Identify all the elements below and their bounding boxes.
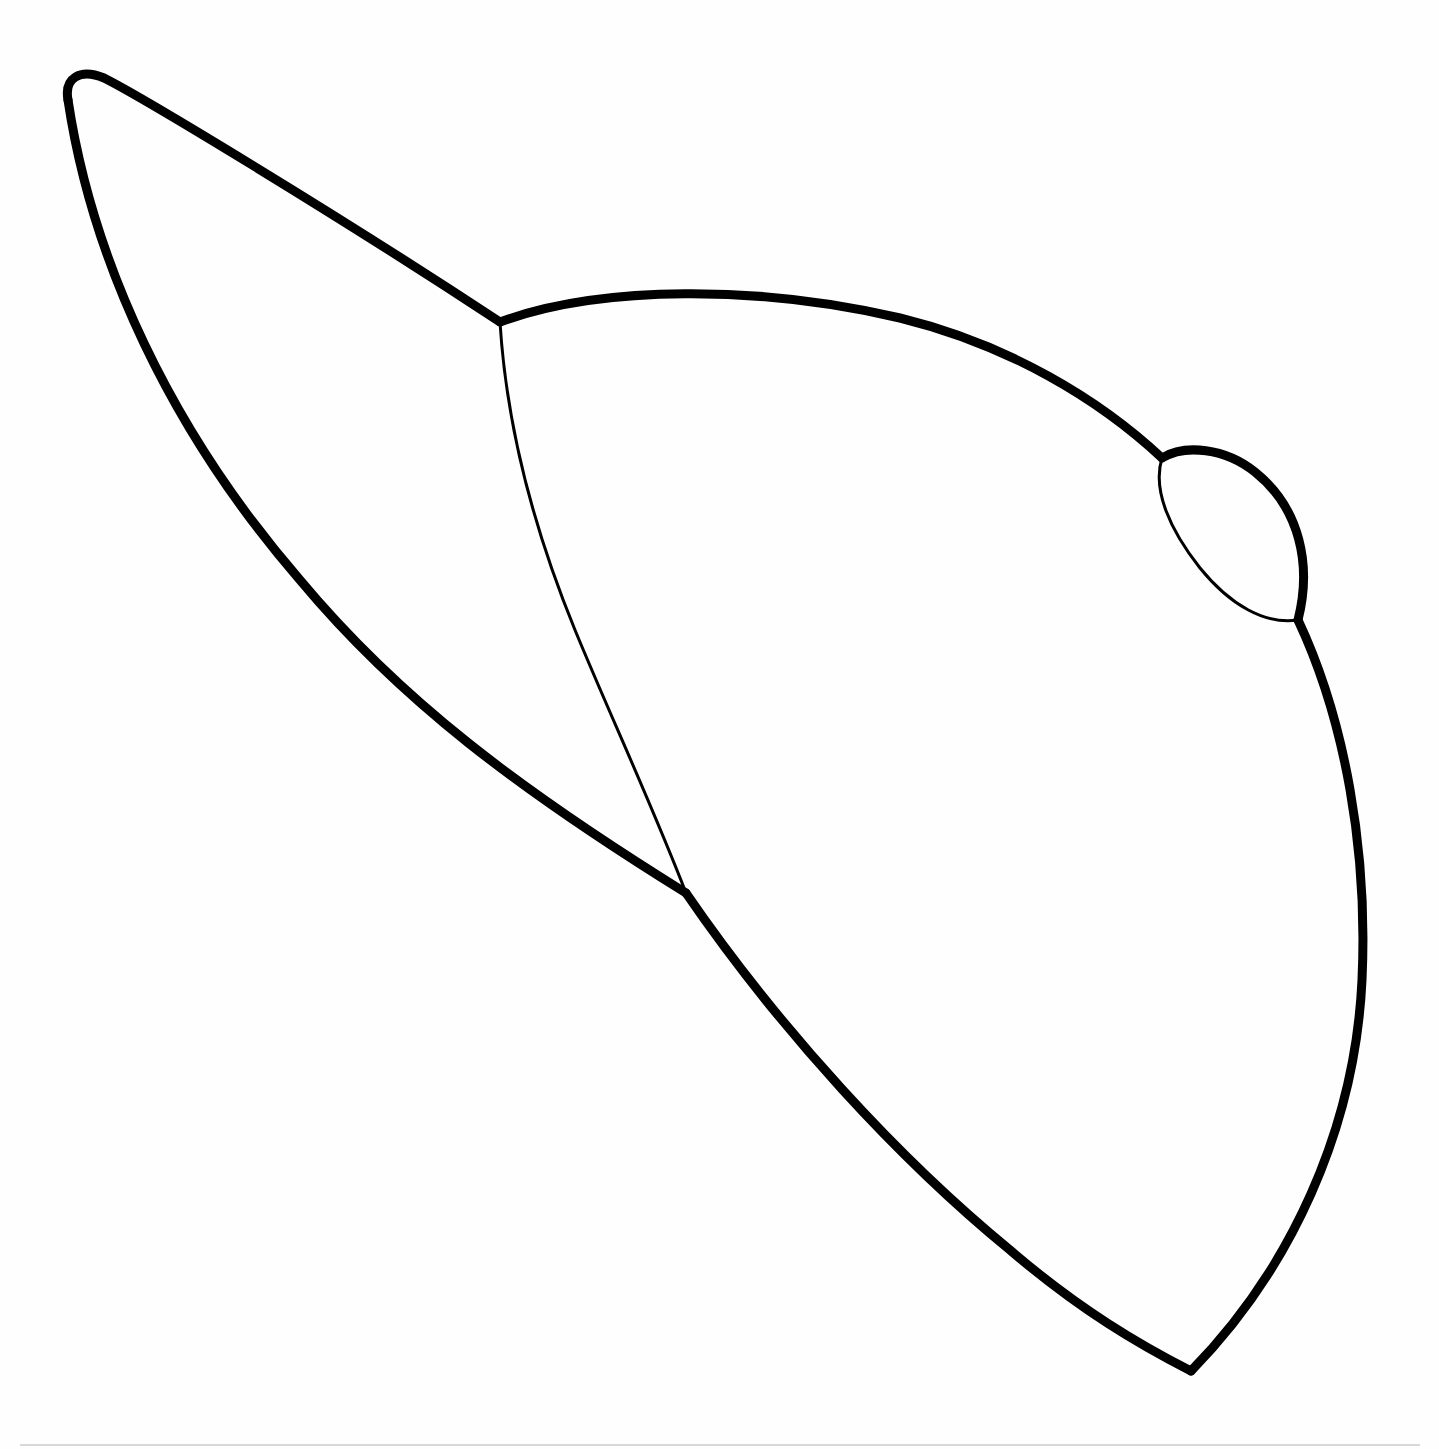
crown-top-edge (500, 294, 1162, 458)
brim-bottom-edge (68, 100, 686, 893)
page-edge-line (20, 1444, 1420, 1446)
baseball-cap-icon (0, 0, 1439, 1449)
top-button-icon (1159, 450, 1303, 621)
crown-right-edge (1191, 620, 1363, 1371)
panel-seam (500, 322, 686, 893)
drawing-canvas: Baseball cap line drawing (0, 0, 1439, 1449)
brim-top-edge (67, 74, 500, 322)
crown-bottom-edge (686, 893, 1191, 1371)
button-outer-edge (1162, 450, 1304, 620)
button-inner-edge (1159, 458, 1298, 621)
brim (67, 74, 686, 893)
